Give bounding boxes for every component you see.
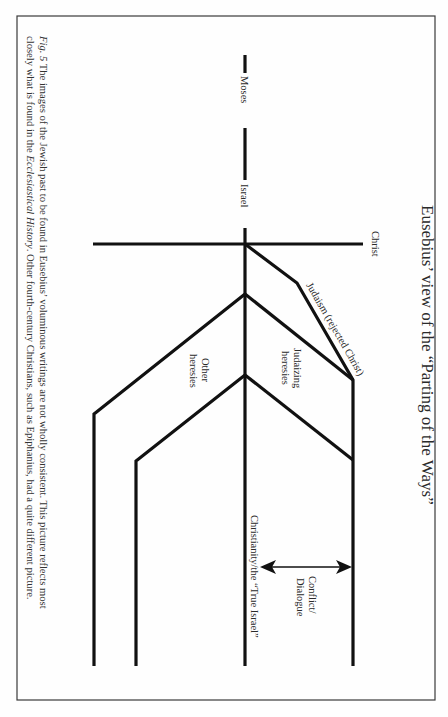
- caption-line2-text-a: closely what is found in the: [25, 36, 36, 155]
- other-heresies-outer-line: [94, 294, 245, 666]
- label-judaizing-line2: heresies: [280, 351, 291, 385]
- book-page: Moses Israel Christ Judaism (rejected Ch…: [0, 0, 448, 717]
- figure-title: Eusebius’ view of the “Parting of the Wa…: [418, 205, 437, 505]
- caption-ecclesiastical-history: Ecclesiastical History: [25, 154, 36, 249]
- figure-caption-line2: closely what is found in the Ecclesiasti…: [25, 36, 36, 600]
- caption-fig-label: Fig. 5: [38, 35, 49, 61]
- label-judaism: Judaism (rejected Christ): [303, 281, 366, 379]
- label-israel: Israel: [239, 184, 250, 207]
- figure-frame: [17, 16, 435, 700]
- other-heresies-inner-line: [136, 375, 245, 666]
- label-christ: Christ: [370, 231, 381, 257]
- caption-line1-text: The images of the Jewish past to be foun…: [38, 61, 49, 608]
- label-conflict-line1: Conflict/: [307, 576, 318, 613]
- label-other-line1: Other: [200, 358, 211, 382]
- label-other-line2: heresies: [188, 354, 199, 388]
- label-moses: Moses: [239, 76, 250, 103]
- caption-line2-text-b: . Other fourth-century Christians, such …: [25, 249, 36, 600]
- figure-canvas: Moses Israel Christ Judaism (rejected Ch…: [0, 0, 448, 717]
- figure-caption-line1: Fig. 5 The images of the Jewish past to …: [38, 35, 49, 609]
- label-christianity-true-israel: Christianity/the “True Israel”: [249, 515, 260, 638]
- label-conflict-line2: Dialogue: [295, 578, 306, 617]
- label-judaizing-line1: Judaizing: [292, 348, 303, 389]
